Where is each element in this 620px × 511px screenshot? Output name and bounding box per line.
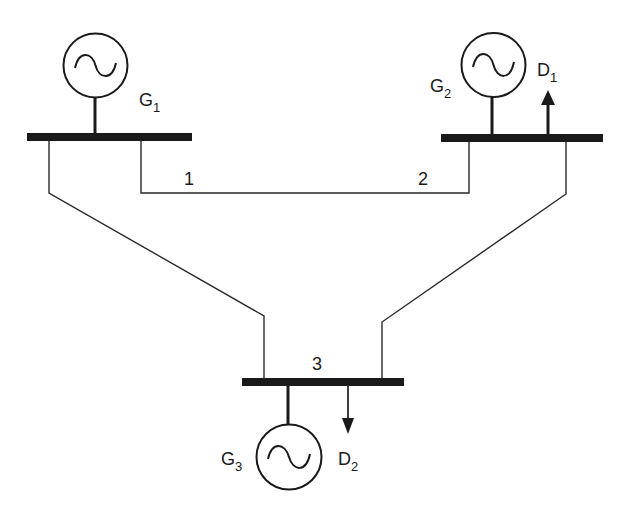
three-bus-power-system-diagram: 1 2 3 G1 G2 D1 — [0, 0, 620, 511]
demand-d1: D1 — [537, 60, 557, 135]
arrow-up-icon — [541, 90, 555, 105]
line-1-3 — [49, 140, 264, 378]
generator-g1-label: G1 — [139, 90, 160, 115]
generator-g2-label: G2 — [430, 76, 451, 101]
bus-bar-2 — [441, 134, 603, 142]
bus-bar-3 — [242, 378, 404, 386]
bus-label-1: 1 — [184, 169, 194, 189]
bus-bar-1 — [27, 133, 192, 141]
bus-2: 2 — [418, 134, 603, 189]
generator-g3: G3 — [221, 385, 322, 490]
bus-label-2: 2 — [418, 169, 428, 189]
demand-d2-label: D2 — [338, 449, 358, 474]
bus-3: 3 — [242, 354, 404, 386]
demand-d2: D2 — [338, 385, 358, 474]
demand-d1-label: D1 — [537, 60, 557, 85]
bus-1: 1 — [27, 133, 194, 189]
transmission-lines — [49, 140, 566, 378]
bus-label-3: 3 — [312, 354, 322, 374]
generator-g3-label: G3 — [221, 449, 242, 474]
line-2-3 — [382, 141, 566, 378]
generator-g2: G2 — [430, 33, 526, 135]
arrow-down-icon — [342, 418, 354, 434]
generator-g1: G1 — [64, 34, 161, 135]
